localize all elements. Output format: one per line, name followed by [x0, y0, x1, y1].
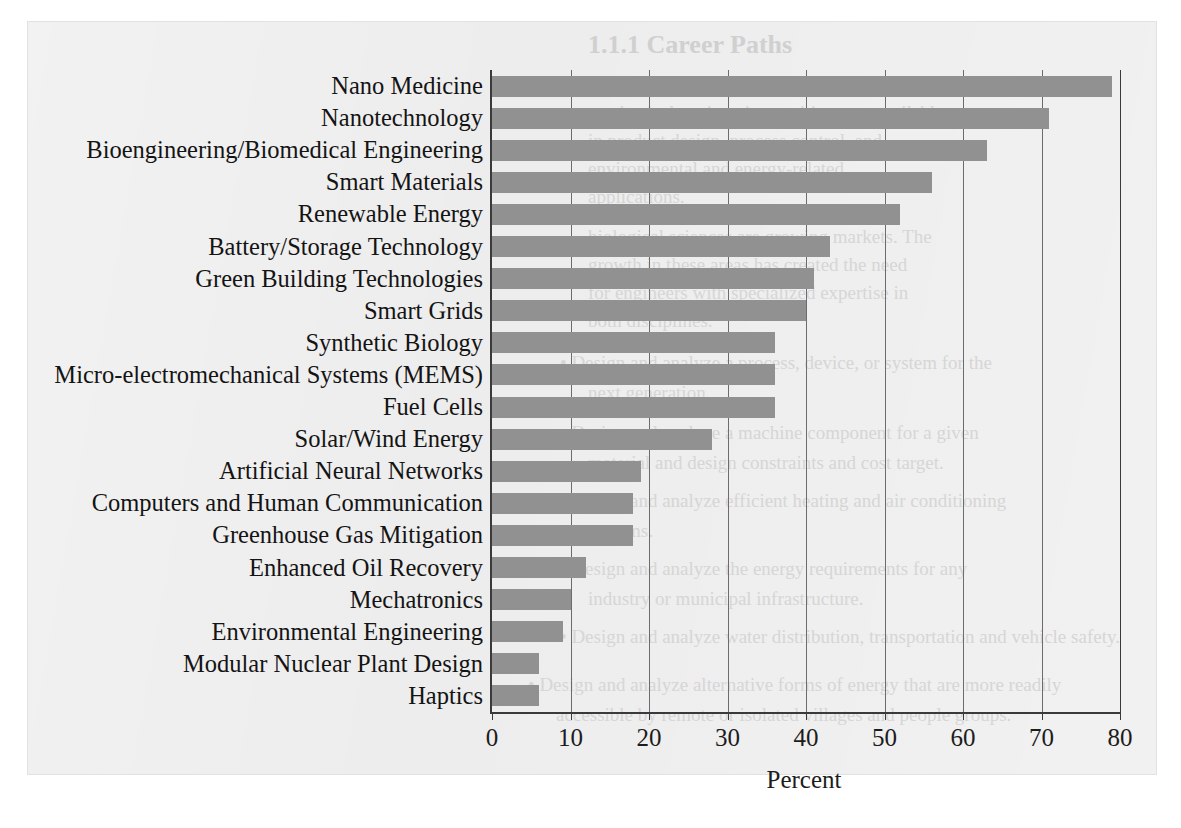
category-label: Enhanced Oil Recovery: [249, 552, 483, 584]
bar-row: Battery/Storage Technology: [492, 231, 1120, 263]
bar-row: Synthetic Biology: [492, 327, 1120, 359]
x-tick: [492, 712, 493, 720]
category-label: Nanotechnology: [321, 102, 483, 134]
x-tick: [1042, 712, 1043, 720]
bar-row: Smart Materials: [492, 166, 1120, 198]
category-label: Mechatronics: [350, 584, 483, 616]
category-label: Synthetic Biology: [305, 327, 483, 359]
bar: [492, 76, 1112, 97]
bar-row: Mechatronics: [492, 584, 1120, 616]
bar: [492, 332, 775, 353]
bar: [492, 493, 633, 514]
category-label: Greenhouse Gas Mitigation: [212, 519, 483, 551]
x-tick: [963, 712, 964, 720]
bar: [492, 461, 641, 482]
gridline: [1120, 70, 1121, 712]
bar: [492, 557, 586, 578]
category-label: Smart Grids: [364, 295, 483, 327]
bar-row: Environmental Engineering: [492, 616, 1120, 648]
bar: [492, 589, 571, 610]
bar-row: Smart Grids: [492, 295, 1120, 327]
bar-row: Bioengineering/Biomedical Engineering: [492, 134, 1120, 166]
x-tick-label: 70: [1029, 724, 1054, 752]
x-tick-label: 50: [872, 724, 897, 752]
bar: [492, 621, 563, 642]
category-label: Modular Nuclear Plant Design: [183, 648, 483, 680]
x-tick: [728, 712, 729, 720]
x-tick-label: 80: [1108, 724, 1133, 752]
x-tick: [806, 712, 807, 720]
x-tick-label: 20: [637, 724, 662, 752]
category-label: Computers and Human Communication: [92, 487, 483, 519]
category-label: Battery/Storage Technology: [208, 231, 483, 263]
category-label: Bioengineering/Biomedical Engineering: [86, 134, 483, 166]
category-label: Fuel Cells: [383, 391, 483, 423]
bar: [492, 364, 775, 385]
bar: [492, 172, 932, 193]
bar-row: Micro-electromechanical Systems (MEMS): [492, 359, 1120, 391]
x-tick: [885, 712, 886, 720]
bar-row: Solar/Wind Energy: [492, 423, 1120, 455]
category-label: Haptics: [408, 680, 483, 712]
bar: [492, 685, 539, 706]
x-tick-label: 30: [715, 724, 740, 752]
x-tick: [649, 712, 650, 720]
plot-area: Nano MedicineNanotechnologyBioengineerin…: [490, 70, 1120, 714]
x-tick-label: 0: [486, 724, 499, 752]
bar-row: Computers and Human Communication: [492, 487, 1120, 519]
bar-row: Nanotechnology: [492, 102, 1120, 134]
bar-row: Enhanced Oil Recovery: [492, 552, 1120, 584]
bar: [492, 236, 830, 257]
bar: [492, 204, 900, 225]
bar: [492, 653, 539, 674]
bar-row: Renewable Energy: [492, 198, 1120, 230]
bar: [492, 397, 775, 418]
category-label: Smart Materials: [326, 166, 483, 198]
x-tick: [1120, 712, 1121, 720]
bar-row: Haptics: [492, 680, 1120, 712]
bar: [492, 140, 987, 161]
x-tick-label: 60: [951, 724, 976, 752]
category-label: Renewable Energy: [298, 198, 483, 230]
x-axis-title: Percent: [490, 766, 1118, 794]
bar: [492, 108, 1049, 129]
category-label: Nano Medicine: [331, 70, 483, 102]
bar-row: Green Building Technologies: [492, 263, 1120, 295]
category-label: Micro-electromechanical Systems (MEMS): [54, 359, 483, 391]
x-tick-label: 40: [794, 724, 819, 752]
bar: [492, 300, 806, 321]
bar: [492, 525, 633, 546]
x-tick: [571, 712, 572, 720]
category-label: Environmental Engineering: [212, 616, 483, 648]
x-tick-label: 10: [558, 724, 583, 752]
bar-row: Fuel Cells: [492, 391, 1120, 423]
scanned-page: 1.1.1 Career Pathsindustries. Some chemi…: [28, 22, 1156, 774]
page-root: 1.1.1 Career Pathsindustries. Some chemi…: [0, 0, 1181, 828]
bar-row: Greenhouse Gas Mitigation: [492, 519, 1120, 551]
bar-chart: Nano MedicineNanotechnologyBioengineerin…: [28, 22, 1156, 774]
bar-row: Nano Medicine: [492, 70, 1120, 102]
category-label: Solar/Wind Energy: [295, 423, 483, 455]
bar-row: Modular Nuclear Plant Design: [492, 648, 1120, 680]
bar-row: Artificial Neural Networks: [492, 455, 1120, 487]
category-label: Artificial Neural Networks: [219, 455, 483, 487]
bar: [492, 268, 814, 289]
bar: [492, 429, 712, 450]
category-label: Green Building Technologies: [195, 263, 483, 295]
